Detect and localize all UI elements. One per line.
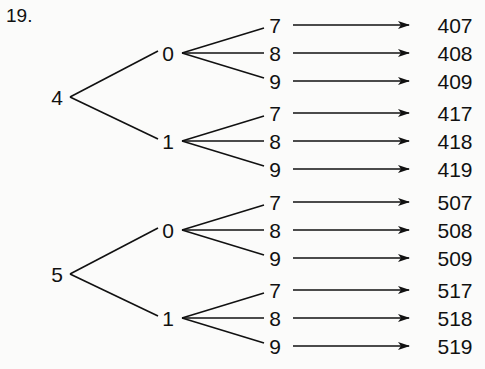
- leaf-edge: [182, 293, 264, 318]
- middle-digit: 1: [162, 308, 174, 329]
- leaf-digit: 8: [269, 43, 281, 64]
- branch-edge: [70, 51, 158, 97]
- leaf-digit: 9: [269, 71, 281, 92]
- branch-edge: [70, 228, 158, 274]
- leaf-digit: 9: [269, 248, 281, 269]
- leaf-digit: 8: [269, 308, 281, 329]
- leaf-edge: [182, 28, 264, 53]
- leaf-digit: 7: [269, 15, 281, 36]
- root-digit: 4: [51, 87, 63, 108]
- leaf-digit: 8: [269, 131, 281, 152]
- middle-digit: 0: [162, 43, 174, 64]
- result-number: 519: [437, 336, 472, 357]
- middle-digit: 1: [162, 131, 174, 152]
- branch-edge: [70, 274, 158, 316]
- result-number: 507: [437, 192, 472, 213]
- leaf-digit: 7: [269, 280, 281, 301]
- leaf-digit: 9: [269, 159, 281, 180]
- result-number: 509: [437, 248, 472, 269]
- leaf-edge: [182, 318, 264, 343]
- result-number: 518: [437, 308, 472, 329]
- result-number: 417: [437, 103, 472, 124]
- leaf-edge: [182, 205, 264, 230]
- leaf-edge: [182, 116, 264, 141]
- result-number: 508: [437, 220, 472, 241]
- result-number: 407: [437, 15, 472, 36]
- result-number: 408: [437, 43, 472, 64]
- tree-diagram-lines: [0, 0, 485, 369]
- result-number: 419: [437, 159, 472, 180]
- leaf-edge: [182, 141, 264, 166]
- leaf-edge: [182, 53, 264, 78]
- root-digit: 5: [51, 264, 63, 285]
- result-number: 418: [437, 131, 472, 152]
- result-number: 517: [437, 280, 472, 301]
- leaf-digit: 7: [269, 192, 281, 213]
- result-number: 409: [437, 71, 472, 92]
- leaf-edge: [182, 230, 264, 255]
- branch-edge: [70, 97, 158, 139]
- leaf-digit: 8: [269, 220, 281, 241]
- middle-digit: 0: [162, 220, 174, 241]
- leaf-digit: 9: [269, 336, 281, 357]
- leaf-digit: 7: [269, 103, 281, 124]
